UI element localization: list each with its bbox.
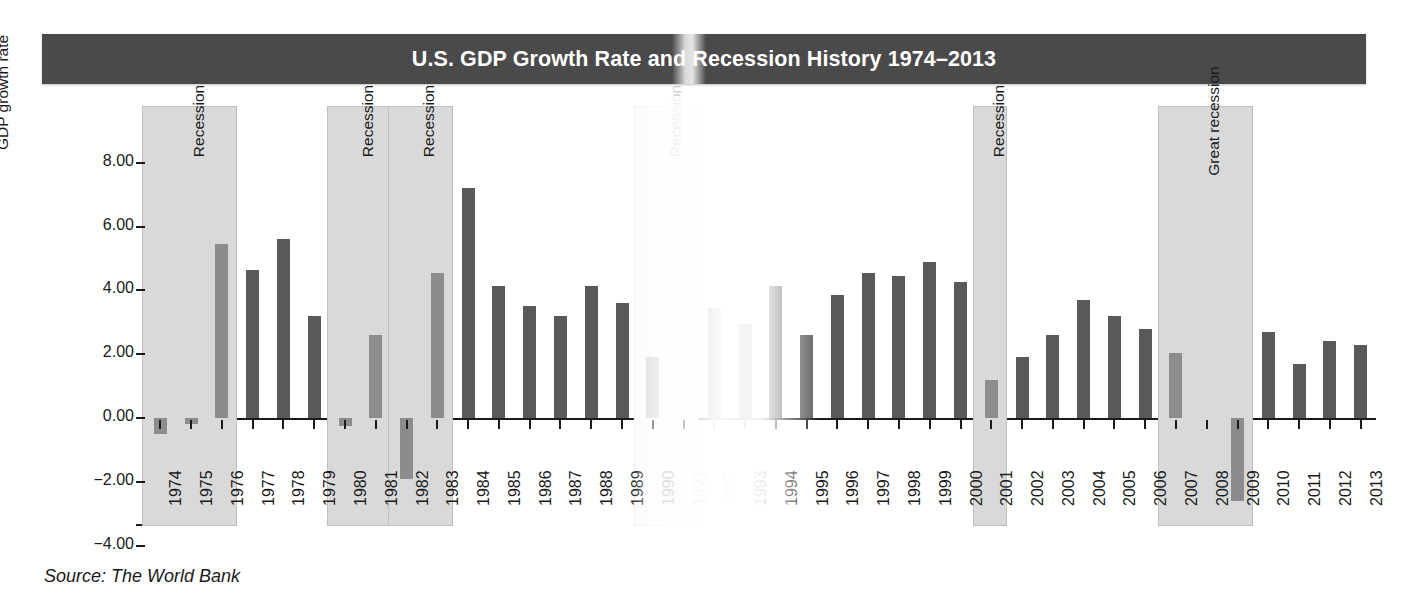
- x-axis-tick-label: 2010: [1275, 470, 1293, 506]
- bar: [1077, 300, 1090, 418]
- x-axis-tick-label: 1999: [937, 470, 955, 506]
- x-axis-tick-label: 2000: [968, 470, 986, 506]
- x-axis-tick: [529, 420, 531, 429]
- bar: [1046, 335, 1059, 418]
- x-axis-tick-label: 1986: [537, 470, 555, 506]
- x-axis-tick-label: 1991: [691, 470, 709, 506]
- x-axis-tick: [252, 420, 254, 429]
- x-axis-tick-label: 1997: [875, 470, 893, 506]
- y-axis-tick-label: −4.00: [56, 535, 134, 553]
- y-axis-tick: [136, 226, 145, 228]
- y-axis-tick-label: −2.00: [56, 471, 134, 489]
- bar: [554, 316, 567, 418]
- recession-band-label: Recession: [667, 85, 685, 157]
- x-axis-tick-label: 1983: [444, 470, 462, 506]
- bar: [308, 316, 321, 418]
- x-axis-tick-label: 1977: [260, 470, 278, 506]
- x-axis-tick: [867, 420, 869, 429]
- bar: [1139, 329, 1152, 418]
- x-axis-tick: [621, 420, 623, 429]
- x-axis-tick: [282, 420, 284, 429]
- x-axis-tick-label: 1979: [321, 470, 339, 506]
- title-banner: U.S. GDP Growth Rate and Recession Histo…: [42, 34, 1366, 84]
- x-axis-tick-label: 1974: [167, 470, 185, 506]
- bar: [492, 286, 505, 418]
- y-axis-tick-label: 0.00: [56, 407, 134, 425]
- x-axis-tick-label: 1982: [414, 470, 432, 506]
- recession-band-label: Recession: [420, 85, 438, 157]
- page-title: U.S. GDP Growth Rate and Recession Histo…: [412, 47, 996, 72]
- x-axis-tick-label: 1981: [383, 470, 401, 506]
- x-axis-tick-label: 2001: [998, 470, 1016, 506]
- bar: [708, 308, 721, 418]
- x-axis-tick: [898, 420, 900, 429]
- x-axis-tick: [652, 420, 654, 429]
- x-axis-tick: [313, 420, 315, 429]
- y-axis-tick: [136, 481, 145, 483]
- recession-band-label: Great recession: [1205, 66, 1223, 175]
- x-axis-tick-label: 1978: [290, 470, 308, 506]
- x-axis-tick-label: 2004: [1091, 470, 1109, 506]
- x-axis-tick: [1175, 420, 1177, 429]
- y-axis-tick: [136, 417, 145, 419]
- x-axis-tick-label: 1975: [198, 470, 216, 506]
- x-axis-tick-label: 2003: [1060, 470, 1078, 506]
- x-axis-tick: [436, 420, 438, 429]
- recession-band-label: Recession: [190, 85, 208, 157]
- x-axis-tick-label: 1984: [475, 470, 493, 506]
- x-axis-tick: [929, 420, 931, 429]
- y-axis-tick: [136, 353, 145, 355]
- x-axis-tick: [159, 420, 161, 429]
- x-axis-tick-label: 2008: [1214, 470, 1232, 506]
- x-axis-tick-label: 1993: [752, 470, 770, 506]
- x-axis-tick: [1144, 420, 1146, 429]
- x-axis-ticks: [145, 420, 1378, 430]
- x-axis-tick-label: 2009: [1245, 470, 1263, 506]
- x-axis-tick: [406, 420, 408, 429]
- bar: [739, 324, 752, 418]
- x-axis-tick: [1329, 420, 1331, 429]
- bar: [1323, 341, 1336, 418]
- y-axis-tick-label: 4.00: [56, 279, 134, 297]
- x-axis-tick-label: 1987: [567, 470, 585, 506]
- x-axis-tick-label: 1989: [629, 470, 647, 506]
- x-axis-tick: [836, 420, 838, 429]
- bar: [462, 188, 475, 418]
- bar: [1354, 345, 1367, 418]
- x-axis-tick: [1298, 420, 1300, 429]
- x-axis-tick: [498, 420, 500, 429]
- y-axis-tick: [136, 289, 145, 291]
- x-axis-tick-label: 1996: [844, 470, 862, 506]
- x-axis-tick-label: 2005: [1121, 470, 1139, 506]
- y-axis-tick-label: 8.00: [56, 152, 134, 170]
- x-axis-tick: [990, 420, 992, 429]
- x-axis-tick-label: 2013: [1368, 470, 1386, 506]
- y-axis-title: GDP growth rate: [0, 35, 12, 150]
- x-axis-tick-label: 2006: [1152, 470, 1170, 506]
- bar: [431, 273, 444, 418]
- x-axis-tick: [375, 420, 377, 429]
- x-axis-tick-label: 1990: [660, 470, 678, 506]
- x-axis-tick: [713, 420, 715, 429]
- bar: [246, 270, 259, 418]
- x-axis-tick: [1360, 420, 1362, 429]
- x-axis-tick-label: 2011: [1306, 472, 1324, 506]
- bar: [1108, 316, 1121, 418]
- y-axis-tick: [136, 545, 145, 547]
- x-axis-tick: [221, 420, 223, 429]
- x-axis-tick: [806, 420, 808, 429]
- bar: [892, 276, 905, 418]
- bar: [646, 357, 659, 418]
- x-axis-tick: [1206, 420, 1208, 429]
- bar: [831, 295, 844, 418]
- x-axis-tick-label: 2007: [1183, 470, 1201, 506]
- x-axis-tick-label: 1995: [814, 470, 832, 506]
- x-axis-tick-label: 2002: [1029, 470, 1047, 506]
- recession-band-label: Recession: [990, 85, 1008, 157]
- bar: [769, 286, 782, 418]
- bar: [616, 303, 629, 418]
- x-axis-tick-label: 1988: [598, 470, 616, 506]
- x-axis-tick: [1113, 420, 1115, 429]
- x-axis-tick-labels: 1974197519761977197819791980198119821983…: [145, 430, 1378, 540]
- y-axis-tick-label: 2.00: [56, 343, 134, 361]
